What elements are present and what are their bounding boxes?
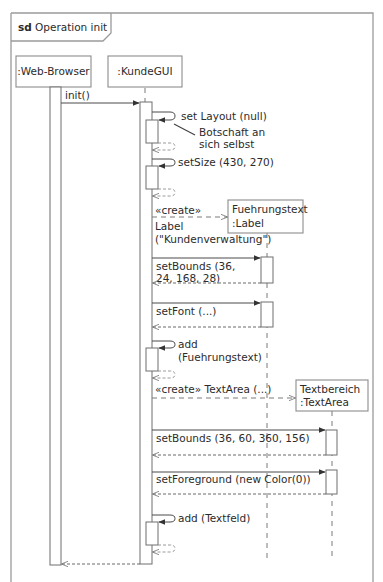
lifeline-head-fuehrungstext: Fuehrungstext :Label xyxy=(228,200,308,233)
frame-keyword: sd xyxy=(18,21,32,33)
create-label-line-1: Label xyxy=(155,220,183,232)
lifeline-head-web-browser: :Web-Browser xyxy=(16,56,91,87)
activation-textbereich-setforeground xyxy=(326,470,337,494)
message-setforeground: setForeground (new Color(0)) xyxy=(152,472,326,494)
activation-web-browser xyxy=(50,87,61,565)
kundegui-label: :KundeGUI xyxy=(117,65,172,77)
fuehrungstext-label-1: Fuehrungstext xyxy=(232,203,308,215)
create-textarea-label: «create» TextArea (...) xyxy=(155,383,271,395)
activation-fuehrungstext-setfont xyxy=(261,302,273,327)
setbounds1-label-1: setBounds (36, xyxy=(156,260,235,272)
activation-fuehrungstext-setbounds xyxy=(261,257,273,283)
message-add-fuehrungstext: add (Fuehrungstext) xyxy=(152,338,262,378)
message-init-label: init() xyxy=(65,89,90,101)
message-set-size: setSize (430, 270) xyxy=(152,156,274,196)
add2-label: add (Textfeld) xyxy=(178,512,250,524)
message-set-layout-label: set Layout (null) xyxy=(181,110,267,122)
create-label-line-2: ("Kundenverwaltung") xyxy=(155,233,271,245)
web-browser-label: :Web-Browser xyxy=(17,65,90,77)
textbereich-label-1: Textbereich xyxy=(299,383,360,395)
note-line-1: Botschaft an xyxy=(199,126,265,138)
message-setbounds-textarea: setBounds (36, 60, 360, 156) xyxy=(152,430,326,455)
create-stereotype: «create» xyxy=(155,204,201,216)
lifeline-head-kundegui: :KundeGUI xyxy=(108,56,182,87)
activation-add-fuehrungstext xyxy=(146,348,158,371)
sequence-diagram: sd Operation init :Web-Browser :KundeGUI… xyxy=(0,0,383,582)
textbereich-label-2: :TextArea xyxy=(300,396,349,408)
activation-add-textfeld xyxy=(146,522,158,545)
message-init: init() xyxy=(61,89,139,103)
setbounds2-label: setBounds (36, 60, 360, 156) xyxy=(156,432,309,444)
add1-label-1: add xyxy=(178,338,198,350)
lifeline-head-textbereich: Textbereich :TextArea xyxy=(296,380,368,411)
message-setbounds-label: setBounds (36, 24, 168, 28) xyxy=(152,258,261,284)
message-create-textarea: «create» TextArea (...) xyxy=(152,383,295,398)
add1-label-2: (Fuehrungstext) xyxy=(178,351,262,363)
message-add-textfeld: add (Textfeld) xyxy=(152,512,250,552)
message-setfont: setFont (...) xyxy=(152,303,261,327)
setbounds1-label-2: 24, 168, 28) xyxy=(156,272,220,284)
setfont-label: setFont (...) xyxy=(156,305,216,317)
fuehrungstext-label-2: :Label xyxy=(232,217,264,229)
frame-title: Operation init xyxy=(35,21,107,33)
activation-set-size xyxy=(146,166,158,189)
setforeground-label: setForeground (new Color(0)) xyxy=(156,473,311,485)
note-line-2: sich selbst xyxy=(199,138,254,150)
activation-textbereich-setbounds xyxy=(326,430,337,455)
self-message-note: Botschaft an sich selbst xyxy=(174,124,265,150)
message-set-size-label: setSize (430, 270) xyxy=(178,156,274,168)
activation-set-layout xyxy=(146,120,158,143)
